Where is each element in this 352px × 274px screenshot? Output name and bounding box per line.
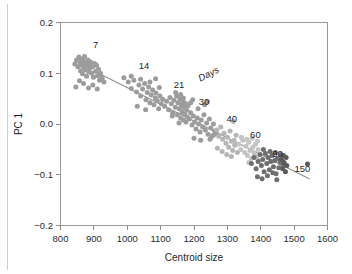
data-point: [265, 173, 270, 178]
data-point: [155, 98, 160, 103]
data-point: [270, 170, 275, 175]
annotation-14: 14: [139, 60, 150, 71]
data-point: [216, 134, 221, 139]
x-tick-label: 1500: [284, 233, 305, 244]
data-point: [245, 153, 250, 158]
scatter-plot: 8009001000110012001300140015001600−0.2−0…: [0, 0, 352, 274]
data-point: [230, 148, 235, 153]
data-point: [149, 93, 154, 98]
data-point: [260, 176, 265, 181]
data-point: [229, 154, 234, 159]
data-point: [142, 81, 147, 86]
y-tick-label: 0.0: [40, 118, 53, 129]
data-point: [126, 79, 131, 84]
x-tick-label: 1200: [183, 233, 204, 244]
y-tick-label: 0.1: [40, 68, 53, 79]
data-point: [138, 94, 143, 99]
data-point: [95, 86, 100, 91]
data-point: [208, 137, 213, 142]
data-point: [256, 147, 261, 152]
annotation-days: Days: [196, 64, 221, 84]
data-point: [284, 163, 289, 168]
data-point: [256, 159, 261, 164]
data-point: [101, 79, 106, 84]
annotation-60: 60: [250, 129, 261, 140]
data-point: [143, 107, 148, 112]
data-point: [162, 104, 167, 109]
data-point: [190, 97, 195, 102]
data-point: [207, 116, 212, 121]
data-point: [220, 137, 225, 142]
data-point: [129, 74, 134, 79]
data-point: [135, 104, 140, 109]
data-point: [153, 76, 158, 81]
data-point: [249, 161, 254, 166]
data-point: [138, 77, 143, 82]
data-point: [73, 84, 78, 89]
data-point: [181, 96, 186, 101]
annotation-21: 21: [174, 79, 185, 90]
data-point: [211, 122, 216, 127]
data-point: [90, 82, 95, 87]
x-tick-label: 800: [53, 233, 69, 244]
data-layer: 71421Days30406090150: [72, 39, 310, 182]
x-tick-label: 1100: [150, 233, 170, 244]
data-point: [220, 149, 225, 154]
annotation-7: 7: [93, 39, 98, 50]
data-point: [121, 75, 126, 80]
data-point: [192, 136, 197, 141]
data-point: [156, 106, 161, 111]
x-tick-label: 1400: [250, 233, 271, 244]
data-point: [244, 137, 249, 142]
data-point: [228, 129, 233, 134]
data-point: [166, 107, 171, 112]
series-7: [72, 54, 106, 91]
data-point: [283, 169, 288, 174]
data-point: [258, 152, 263, 157]
annotation-90: 90: [272, 148, 283, 159]
annotation-30: 30: [199, 96, 210, 107]
data-point: [214, 128, 219, 133]
data-point: [143, 97, 148, 102]
data-point: [140, 86, 145, 91]
data-point: [134, 90, 139, 95]
data-point: [129, 86, 134, 91]
x-axis-title: Centroid size: [165, 252, 224, 263]
y-tick-label: −0.2: [34, 220, 53, 231]
data-point: [84, 74, 89, 79]
data-point: [146, 84, 151, 89]
y-axis-title: PC 1: [13, 112, 24, 135]
data-point: [255, 174, 260, 179]
data-point: [238, 147, 243, 152]
data-point: [224, 152, 229, 157]
data-point: [284, 155, 289, 160]
data-point: [226, 145, 231, 150]
annotation-40: 40: [226, 113, 237, 124]
data-point: [151, 102, 156, 107]
data-point: [234, 133, 239, 138]
data-point: [176, 120, 181, 125]
data-point: [259, 163, 264, 168]
data-point: [194, 127, 199, 132]
data-point: [261, 147, 266, 152]
data-point: [198, 138, 203, 143]
data-point: [147, 79, 152, 84]
y-tick-label: −0.1: [34, 169, 53, 180]
data-point: [157, 85, 162, 90]
data-point: [86, 85, 91, 90]
data-point: [187, 116, 192, 121]
data-point: [271, 164, 276, 169]
data-point: [81, 81, 86, 86]
data-point: [260, 157, 265, 162]
series-14: [121, 74, 165, 112]
data-point: [225, 135, 230, 140]
data-point: [262, 169, 267, 174]
data-point: [136, 82, 141, 87]
data-point: [222, 131, 227, 136]
data-point: [173, 90, 178, 95]
data-point: [236, 142, 241, 147]
x-tick-label: 1300: [217, 233, 238, 244]
data-point: [170, 113, 175, 118]
data-point: [215, 146, 220, 151]
series-40: [214, 119, 240, 159]
